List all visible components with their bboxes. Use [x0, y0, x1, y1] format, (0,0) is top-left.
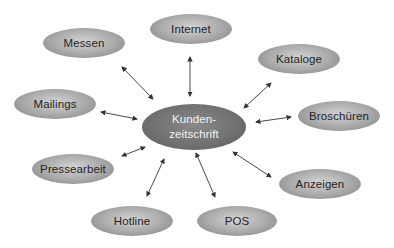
- arrow-kataloge: [244, 83, 271, 108]
- node-anzeigen: Anzeigen: [279, 169, 361, 199]
- center-node-kundenzeitschrift: Kunden- zeitschrift: [142, 104, 246, 150]
- node-messen: Messen: [43, 28, 125, 58]
- node-internet: Internet: [150, 14, 232, 44]
- node-label: Hotline: [114, 215, 151, 227]
- node-hotline: Hotline: [91, 206, 173, 236]
- arrow-hotline: [147, 159, 164, 196]
- node-label: POS: [225, 215, 250, 227]
- arrow-broschueren: [256, 117, 291, 122]
- node-pressearbeit: Pressearbeit: [32, 154, 114, 184]
- node-mailings: Mailings: [14, 89, 96, 119]
- arrow-anzeigen: [233, 152, 271, 177]
- node-label: Broschüren: [309, 110, 369, 122]
- arrow-mailings: [101, 112, 137, 119]
- node-label: Anzeigen: [296, 178, 345, 190]
- arrow-pos: [196, 153, 215, 197]
- arrow-messen: [122, 67, 153, 99]
- node-label: Pressearbeit: [40, 163, 106, 175]
- arrow-pressearbeit: [122, 147, 145, 156]
- node-kataloge: Kataloge: [258, 44, 340, 74]
- node-label: Messen: [64, 37, 105, 49]
- node-broschueren: Broschüren: [298, 101, 380, 131]
- node-label: Kataloge: [276, 53, 322, 65]
- center-label-line2: zeitschrift: [169, 127, 219, 142]
- node-label: Mailings: [34, 98, 77, 110]
- center-label-line1: Kunden-: [172, 112, 216, 127]
- node-label: Internet: [171, 23, 211, 35]
- node-pos: POS: [197, 206, 277, 236]
